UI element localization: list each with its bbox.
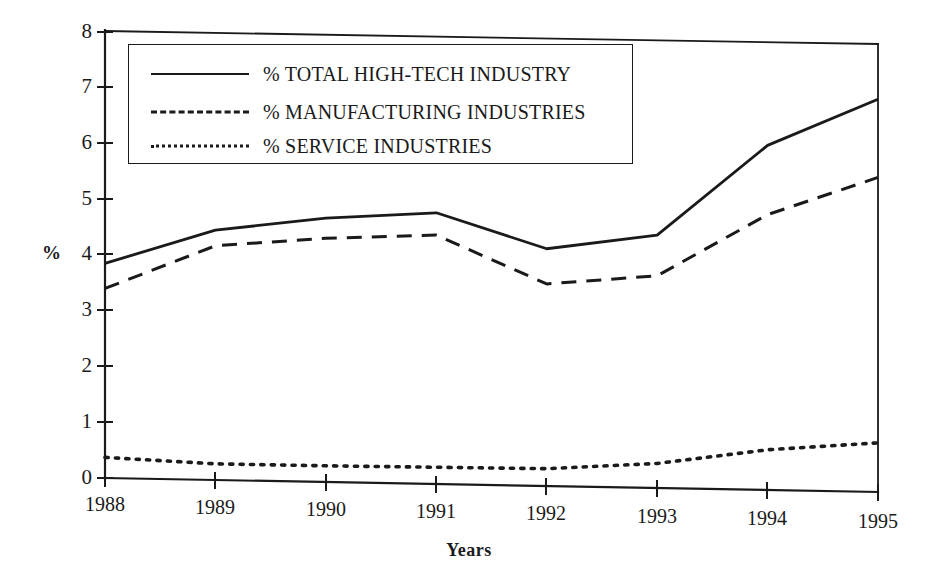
x-axis-title: Years (0, 540, 938, 561)
legend-item-manufacturing: % MANUFACTURING INDUSTRIES (129, 95, 632, 129)
legend-label: % TOTAL HIGH-TECH INDUSTRY (263, 63, 571, 86)
y-tick-label: 0 (58, 467, 92, 488)
top-rule (105, 31, 878, 44)
chart-legend: % TOTAL HIGH-TECH INDUSTRY % MANUFACTURI… (128, 44, 633, 164)
x-tick-label: 1990 (281, 499, 371, 519)
y-tick-label: 2 (58, 355, 92, 376)
legend-label: % SERVICE INDUSTRIES (263, 135, 492, 158)
y-tick-label: 5 (58, 188, 92, 209)
x-tick-label: 1993 (612, 506, 702, 526)
y-tick-label: 1 (58, 411, 92, 432)
y-axis-title: % (42, 243, 61, 262)
x-tick-label: 1988 (60, 494, 150, 514)
legend-dashed-line-icon (151, 105, 249, 119)
legend-item-service: % SERVICE INDUSTRIES (129, 129, 632, 163)
y-tick-label: 4 (58, 243, 92, 264)
x-tick-label: 1992 (501, 503, 591, 523)
x-tick-label: 1989 (170, 497, 260, 517)
series-service-line (105, 443, 878, 469)
y-tick-label: 8 (58, 21, 92, 42)
series-manufacturing-line (105, 177, 878, 288)
legend-dotted-line-icon (151, 139, 249, 153)
legend-item-total-high-tech: % TOTAL HIGH-TECH INDUSTRY (129, 57, 632, 91)
legend-label: % MANUFACTURING INDUSTRIES (263, 101, 586, 124)
x-axis-spine (105, 478, 878, 492)
y-tick-label: 3 (58, 299, 92, 320)
x-tick-label: 1991 (391, 501, 481, 521)
y-tick-label: 6 (58, 132, 92, 153)
x-tick-label: 1994 (722, 508, 812, 528)
x-tick-label: 1995 (833, 511, 923, 531)
line-chart-figure: 8 7 6 5 4 3 2 1 0 % 1988 1989 1990 1991 … (0, 0, 938, 580)
legend-solid-line-icon (151, 67, 249, 81)
y-tick-label: 7 (58, 76, 92, 97)
